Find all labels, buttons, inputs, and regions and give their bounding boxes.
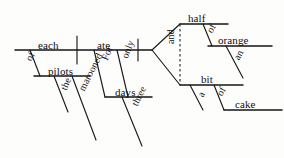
word-object-bit: bit xyxy=(201,74,213,85)
sentence-diagram: each ate of pilots the marooned For only… xyxy=(0,0,284,158)
word-subject-each: each xyxy=(38,40,59,51)
bit-branch-group xyxy=(180,85,282,110)
fork-lower-branch xyxy=(152,50,180,85)
word-object-orange: orange xyxy=(218,35,249,46)
subject-modifier-group xyxy=(30,50,96,140)
word-object-cake: cake xyxy=(235,99,256,110)
diagram-strokes xyxy=(0,0,284,158)
word-conjunction-and: and xyxy=(166,29,176,44)
word-object-pilots: pilots xyxy=(48,66,73,77)
word-object-half: half xyxy=(188,13,206,24)
half-branch-group xyxy=(180,24,272,78)
